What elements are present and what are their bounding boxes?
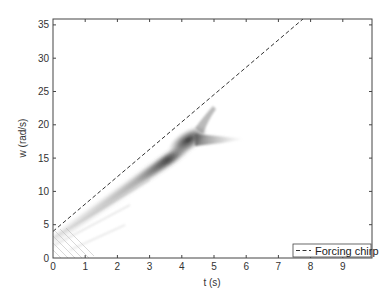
y-axis-label: w (rad/s) bbox=[17, 119, 28, 159]
x-tick-6: 6 bbox=[243, 261, 249, 272]
spectrogram-chart: 0 1 2 3 4 5 6 7 8 9 t (s) 0 5 10 15 20 2… bbox=[0, 0, 391, 301]
legend: Forcing chirp bbox=[293, 244, 379, 257]
x-tick-4: 4 bbox=[179, 261, 185, 272]
x-axis-label: t (s) bbox=[203, 277, 220, 288]
forcing-chirp-line bbox=[53, 19, 303, 231]
plot-area bbox=[53, 19, 303, 258]
x-tick-7: 7 bbox=[276, 261, 282, 272]
y-tick-25: 25 bbox=[38, 86, 50, 97]
y-tick-15: 15 bbox=[38, 153, 50, 164]
y-tick-30: 30 bbox=[38, 53, 50, 64]
y-tick-10: 10 bbox=[38, 186, 50, 197]
secondary-ridges bbox=[53, 180, 150, 250]
x-tick-9: 9 bbox=[340, 261, 346, 272]
x-tick-1: 1 bbox=[82, 261, 88, 272]
x-tick-labels: 0 1 2 3 4 5 6 7 8 9 bbox=[50, 261, 346, 272]
resonance-tail bbox=[195, 134, 245, 146]
x-tick-0: 0 bbox=[50, 261, 56, 272]
x-tick-3: 3 bbox=[147, 261, 153, 272]
y-tick-35: 35 bbox=[38, 19, 50, 30]
x-tick-2: 2 bbox=[115, 261, 121, 272]
legend-label-forcing-chirp: Forcing chirp bbox=[315, 245, 379, 257]
x-tick-5: 5 bbox=[211, 261, 217, 272]
x-tick-8: 8 bbox=[308, 261, 314, 272]
y-axis bbox=[53, 25, 372, 225]
y-tick-5: 5 bbox=[43, 219, 49, 230]
y-tick-labels: 0 5 10 15 20 25 30 35 bbox=[38, 19, 50, 263]
y-tick-20: 20 bbox=[38, 119, 50, 130]
y-tick-0: 0 bbox=[43, 253, 49, 264]
